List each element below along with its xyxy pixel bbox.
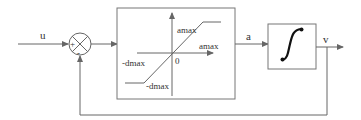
lower-input-label: -dmax	[122, 58, 145, 68]
integrator-block	[268, 24, 316, 69]
integrator-box	[268, 24, 316, 69]
lower-output-label: -dmax	[146, 81, 169, 91]
plus-sign: +	[70, 39, 75, 49]
signal-label-a: a	[246, 30, 251, 42]
input-label-u: u	[40, 29, 46, 41]
output-label-v: v	[323, 33, 329, 45]
block-diagram: u + - amax amax -dmax -dmax 0 a	[0, 0, 361, 120]
saturation-block: amax amax -dmax -dmax 0	[117, 8, 235, 99]
upper-output-label: amax	[177, 25, 197, 35]
origin-label: 0	[175, 56, 180, 66]
upper-input-label: amax	[199, 41, 219, 51]
summing-junction: + -	[69, 33, 91, 58]
